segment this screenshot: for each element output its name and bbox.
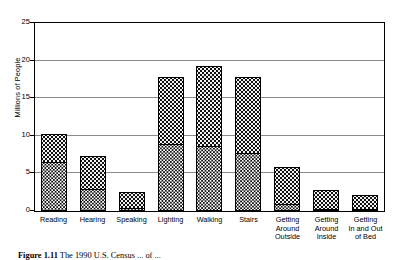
figure-container: Millions of People 0510152025 ReadingHea…: [0, 0, 397, 260]
bar-segment-light: [158, 77, 184, 144]
bar-getting-around-inside[interactable]: [313, 190, 339, 211]
bar-segment-dark: [158, 144, 184, 211]
x-tick-label-getting-in-and-out-of-bed: GettingIn and Outof Bed: [346, 216, 385, 242]
bar-speaking[interactable]: [119, 192, 145, 211]
bar-segment-light: [274, 167, 300, 205]
bar-segment-dark: [196, 146, 222, 211]
x-tick-label-walking: Walking: [190, 216, 229, 242]
y-tick-label-20: 20: [0, 56, 30, 64]
plot-area: [34, 22, 385, 212]
y-tick-label-15: 15: [0, 93, 30, 101]
bar-getting-in-and-out-of-bed[interactable]: [352, 195, 378, 211]
bar-segment-light: [80, 156, 106, 189]
x-tick-label-getting-around-inside: GettingAroundInside: [307, 216, 346, 242]
x-tick-label-hearing: Hearing: [73, 216, 112, 242]
bar-getting-around-outside[interactable]: [274, 167, 300, 211]
y-tick-mark-10: [30, 135, 34, 136]
y-tick-mark-15: [30, 97, 34, 98]
bar-segment-dark: [274, 204, 300, 211]
bar-lighting[interactable]: [158, 77, 184, 211]
bar-stairs[interactable]: [235, 77, 261, 211]
bar-segment-light: [235, 77, 261, 153]
y-tick-mark-0: [30, 210, 34, 211]
x-tick-label-speaking: Speaking: [112, 216, 151, 242]
x-tick-label-getting-around-outside: GettingAroundOutside: [268, 216, 307, 242]
x-tick-label-stairs: Stairs: [229, 216, 268, 242]
y-tick-mark-5: [30, 172, 34, 173]
bar-hearing[interactable]: [80, 156, 106, 211]
bar-segment-light: [119, 192, 145, 208]
y-tick-label-25: 25: [0, 18, 30, 26]
y-tick-mark-25: [30, 22, 34, 23]
bar-segment-light: [313, 190, 339, 209]
bar-reading[interactable]: [41, 134, 67, 211]
bar-walking[interactable]: [196, 66, 222, 211]
bar-segment-light: [352, 195, 378, 209]
bar-segment-dark: [313, 209, 339, 211]
bar-segment-dark: [80, 189, 106, 211]
x-axis-labels: ReadingHearingSpeakingLightingWalkingSta…: [34, 216, 385, 242]
bar-segment-dark: [352, 209, 378, 211]
bar-group: [35, 23, 384, 211]
y-tick-mark-20: [30, 60, 34, 61]
caption-text: The 1990 U.S. Census ... of ...: [60, 251, 161, 260]
y-tick-label-0: 0: [0, 206, 30, 214]
bar-segment-dark: [119, 208, 145, 211]
y-tick-label-10: 10: [0, 131, 30, 139]
bar-segment-dark: [41, 162, 67, 211]
y-tick-label-5: 5: [0, 168, 30, 176]
caption-label: Figure 1.11: [18, 251, 58, 260]
bar-segment-dark: [235, 153, 261, 211]
bar-segment-light: [41, 134, 67, 163]
bar-segment-light: [196, 66, 222, 146]
figure-caption: Figure 1.11 The 1990 U.S. Census ... of …: [18, 251, 388, 260]
x-tick-label-reading: Reading: [34, 216, 73, 242]
x-tick-label-lighting: Lighting: [151, 216, 190, 242]
